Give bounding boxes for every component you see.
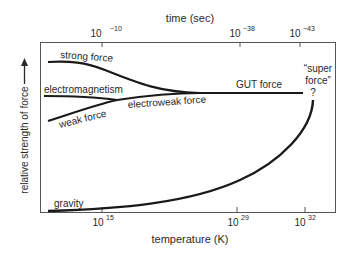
super-force-question: ? xyxy=(310,87,316,98)
y-axis-title: relative strength of force xyxy=(19,86,30,194)
svg-text:15: 15 xyxy=(106,214,114,221)
super-force-label-line1: “super xyxy=(304,63,333,74)
svg-text:32: 32 xyxy=(308,214,316,221)
svg-text:10: 10 xyxy=(227,217,239,228)
svg-text:10: 10 xyxy=(294,217,306,228)
top-tick-2: 10 −38 xyxy=(229,25,255,39)
top-tick-3: 10 −43 xyxy=(289,25,315,39)
electromagnetism-label: electromagnetism xyxy=(44,84,123,95)
svg-text:−10: −10 xyxy=(110,25,122,32)
up-arrow-icon xyxy=(21,58,28,84)
super-force-label-line2: force” xyxy=(305,75,331,86)
bottom-axis-title: temperature (K) xyxy=(151,233,228,245)
svg-text:−43: −43 xyxy=(303,25,315,32)
y-axis-title-group: relative strength of force xyxy=(19,86,30,194)
svg-text:10: 10 xyxy=(289,28,301,39)
svg-text:10: 10 xyxy=(229,28,241,39)
top-tick-1: 10 −10 xyxy=(90,25,122,39)
plot-frame xyxy=(41,43,336,213)
bottom-tick-3: 10 32 xyxy=(294,214,315,228)
gravity-label: gravity xyxy=(54,198,83,209)
svg-text:10: 10 xyxy=(90,28,102,39)
svg-text:29: 29 xyxy=(241,214,249,221)
top-axis-title: time (sec) xyxy=(166,12,214,24)
bottom-tick-1: 10 15 xyxy=(92,214,113,228)
force-unification-diagram: time (sec) 10 −10 10 −38 10 −43 strong f… xyxy=(0,0,349,253)
electromagnetism-curve xyxy=(44,96,117,100)
bottom-tick-2: 10 29 xyxy=(227,214,248,228)
svg-text:−38: −38 xyxy=(243,25,255,32)
svg-text:10: 10 xyxy=(92,217,104,228)
gut-force-label: GUT force xyxy=(236,79,282,90)
